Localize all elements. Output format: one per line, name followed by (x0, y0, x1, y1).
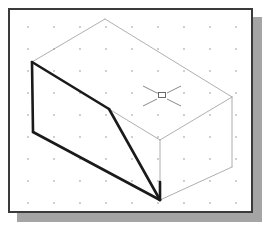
drawing-window-frame (8, 8, 253, 213)
thick-edge-group (32, 62, 160, 200)
cursor-pick-box (159, 93, 166, 98)
edge-top-back-right (105, 19, 232, 97)
edge-top-back-left (32, 19, 105, 62)
edge-top-front-right (160, 97, 232, 140)
isometric-solid-drawing (10, 10, 251, 211)
crosshair-arm-lower-right (167, 99, 181, 106)
crosshair-pick-box-cursor[interactable] (143, 86, 181, 106)
crosshair-arm-upper-right (167, 86, 181, 93)
screenshot-root (0, 0, 267, 228)
edge-chamfer-upper (32, 62, 109, 109)
edge-left-vertical (32, 62, 33, 132)
crosshair-arm-upper-left (143, 86, 157, 93)
crosshair-arm-lower-left (143, 99, 157, 106)
drawing-canvas[interactable] (10, 10, 251, 211)
edge-bottom-right (160, 167, 232, 200)
thin-edge-group (32, 19, 232, 200)
